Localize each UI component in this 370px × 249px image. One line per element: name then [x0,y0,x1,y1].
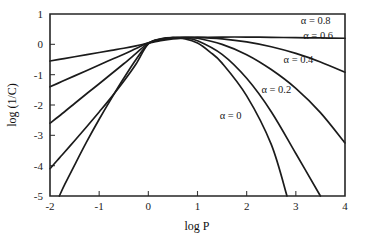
curve-alpha-0 [59,38,287,196]
y-tick-label: -2 [34,99,43,111]
x-tick-label: 3 [293,200,299,212]
y-tick-label: -5 [34,190,44,202]
y-tick-label: 1 [38,8,44,20]
y-tick-label: 0 [38,38,44,50]
x-axis-title: log P [184,219,209,233]
y-axis-title: log (1/C) [5,83,19,127]
series-label-alpha-0: α = 0 [220,110,242,121]
y-tick-label: -3 [34,129,44,141]
series-label-alpha-0.6: α = 0.6 [303,30,333,41]
y-tick-label: -1 [34,69,43,81]
chart-figure: -2-10123410-1-2-3-4-5 α = 0.8α = 0.6α = … [0,0,370,249]
x-tick-label: 2 [244,200,250,212]
x-tick-label: 4 [342,200,348,212]
line-chart: -2-10123410-1-2-3-4-5 α = 0.8α = 0.6α = … [0,0,370,249]
x-tick-label: -2 [45,200,54,212]
axis-ticks [50,44,296,196]
x-tick-label: 1 [195,200,201,212]
series-label-alpha-0.2: α = 0.2 [261,84,291,95]
x-tick-label: 0 [146,200,152,212]
series-label-alpha-0.4: α = 0.4 [284,54,315,65]
series-label-alpha-0.8: α = 0.8 [301,15,331,26]
y-tick-label: -4 [34,160,44,172]
x-tick-label: -1 [95,200,104,212]
